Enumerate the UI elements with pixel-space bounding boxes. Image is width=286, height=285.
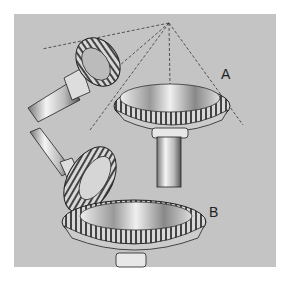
bevel-gear-illustration bbox=[0, 0, 286, 285]
label-gear-a: A bbox=[221, 66, 230, 82]
label-gear-b: B bbox=[209, 204, 218, 220]
